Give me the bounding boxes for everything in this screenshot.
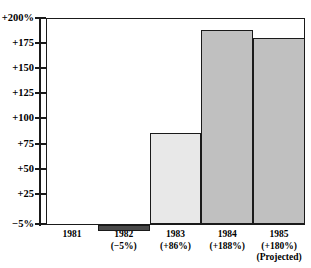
x-label-annotation: (Projected) xyxy=(253,252,305,264)
x-label-value: (+180%) xyxy=(253,241,305,253)
x-label-1984: 1984(+188%) xyxy=(201,229,253,252)
y-tick-label-50: +50 xyxy=(0,164,34,174)
x-label-1985: 1985(+180%)(Projected) xyxy=(253,229,305,264)
y-tick-100 xyxy=(35,117,46,119)
y-tick-label-75: +75 xyxy=(0,139,34,149)
y-tick-label-100: +100 xyxy=(0,113,34,123)
y-tick-25 xyxy=(35,193,46,195)
x-label-year: 1984 xyxy=(201,229,253,241)
y-tick--5 xyxy=(35,223,46,225)
y-tick-75 xyxy=(35,143,46,145)
x-label-year: 1981 xyxy=(46,229,98,241)
y-tick-label--5: −5% xyxy=(0,219,34,229)
bar-1985 xyxy=(253,38,305,224)
y-tick-label-25: +25 xyxy=(0,189,34,199)
x-label-value: (−5%) xyxy=(98,241,150,253)
x-label-year: 1982 xyxy=(98,229,150,241)
x-label-1983: 1983(+86%) xyxy=(150,229,202,252)
x-label-1982: 1982(−5%) xyxy=(98,229,150,252)
x-axis-labels: 19811982(−5%)1983(+86%)1984(+188%)1985(+… xyxy=(46,229,305,268)
y-tick-200 xyxy=(35,17,46,19)
y-tick-label-125: +125 xyxy=(0,88,34,98)
y-tick-175 xyxy=(35,42,46,44)
bar-1982 xyxy=(98,225,150,231)
x-label-value: (+86%) xyxy=(150,241,202,253)
y-tick-label-175: +175 xyxy=(0,38,34,48)
bar-1983 xyxy=(150,133,202,224)
x-label-year: 1983 xyxy=(150,229,202,241)
y-tick-label-150: +150 xyxy=(0,63,34,73)
x-label-value: (+188%) xyxy=(201,241,253,253)
bar-series xyxy=(46,18,305,224)
y-tick-label-200: +200% xyxy=(0,13,34,23)
y-tick-125 xyxy=(35,92,46,94)
bar-1984 xyxy=(201,30,253,224)
y-tick-50 xyxy=(35,168,46,170)
bar-chart: −5%+25+50+75+100+125+150+175+200% 198119… xyxy=(0,0,311,268)
x-label-1981: 1981 xyxy=(46,229,98,241)
y-tick-150 xyxy=(35,67,46,69)
x-label-year: 1985 xyxy=(253,229,305,241)
